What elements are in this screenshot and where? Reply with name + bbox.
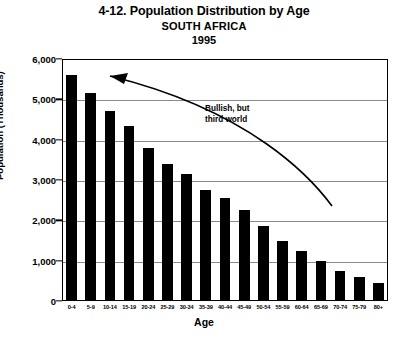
x-axis-tick-label: 35-39 <box>199 304 213 310</box>
y-axis-title: Population (Thousands) <box>0 71 5 180</box>
y-axis-tick-label: 3,000 <box>12 175 56 186</box>
x-axis-tick-label: 20-24 <box>141 304 155 310</box>
x-axis-tick-label: 10-14 <box>103 304 117 310</box>
x-axis-tick-label: 70-74 <box>333 304 347 310</box>
bar <box>316 261 327 301</box>
x-axis-tick-label: 55-59 <box>276 304 290 310</box>
y-axis-tick-label: 6,000 <box>12 54 56 65</box>
bar <box>181 174 192 301</box>
bar <box>296 251 307 301</box>
bar <box>239 210 250 301</box>
y-axis-tick-label: 1,000 <box>12 255 56 266</box>
x-axis-tick-label: 65-69 <box>314 304 328 310</box>
bar <box>354 277 365 301</box>
bar-series <box>62 59 388 301</box>
bar <box>200 190 211 301</box>
bar <box>220 198 231 301</box>
bar <box>335 271 346 301</box>
bar <box>124 126 135 301</box>
bar <box>66 75 77 301</box>
bar <box>105 111 116 301</box>
x-axis-tick-label: 45-49 <box>237 304 251 310</box>
y-axis-tick-label: 5,000 <box>12 94 56 105</box>
chart-figure: 4-12. Population Distribution by Age SOU… <box>0 0 408 342</box>
y-axis-tick-label: 4,000 <box>12 134 56 145</box>
chart-title: 4-12. Population Distribution by Age <box>0 4 408 19</box>
chart-year-label: 1995 <box>0 33 408 47</box>
bar <box>258 226 269 301</box>
x-axis-tick-label: 50-54 <box>256 304 270 310</box>
x-axis-tick-label: 30-34 <box>180 304 194 310</box>
annotation-line-1: Bullish, but <box>205 104 250 115</box>
bar <box>373 283 384 301</box>
x-axis-tick-label: 0-4 <box>68 304 76 310</box>
annotation-text: Bullish, but third world <box>205 104 250 125</box>
bar <box>277 241 288 302</box>
bar <box>162 164 173 301</box>
x-axis-tick-label: 15-19 <box>122 304 136 310</box>
x-axis-tick-label: 75-79 <box>352 304 366 310</box>
chart-title-block: 4-12. Population Distribution by Age SOU… <box>0 4 408 47</box>
y-axis-tick-label: 2,000 <box>12 215 56 226</box>
chart-subtitle: SOUTH AFRICA <box>0 19 408 33</box>
x-axis-tick-label: 25-29 <box>161 304 175 310</box>
y-axis-tick-label: 0 <box>12 296 56 307</box>
x-axis-tick-label: 5-9 <box>87 304 95 310</box>
annotation-line-2: third world <box>205 115 250 126</box>
x-axis-title: Age <box>0 316 408 328</box>
bar <box>85 93 96 301</box>
x-axis-tick-label: 40-44 <box>218 304 232 310</box>
x-axis-tick-label: 80+ <box>374 304 383 310</box>
bar <box>143 148 154 301</box>
x-axis-tick-label: 60-64 <box>295 304 309 310</box>
